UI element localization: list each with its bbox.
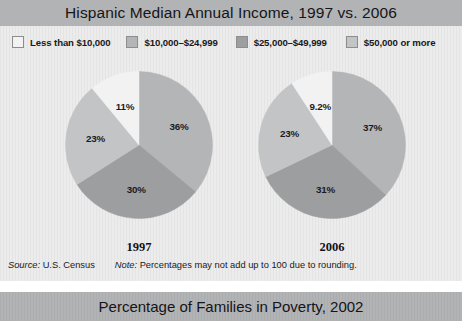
legend-item-label: $10,000–$24,999 (144, 37, 217, 48)
poverty-title-band: Percentage of Families in Poverty, 2002 (0, 292, 462, 321)
legend-swatch-icon (236, 36, 248, 48)
pie-slice-label: 23% (280, 128, 299, 139)
pie-slice-label: 23% (86, 133, 105, 144)
legend-item-label: Less than $10,000 (30, 37, 110, 48)
pie-chart-2006: 37%31%23%9.2% (258, 71, 406, 219)
pie-slice-label: 9.2% (310, 100, 332, 111)
source-value: U.S. Census (43, 260, 95, 270)
income-figure-panel: Hispanic Median Annual Income, 1997 vs. … (0, 0, 462, 281)
pie-slice-label: 37% (363, 122, 382, 133)
panel-divider (0, 281, 462, 292)
pie-2006-canvas: 37%31%23%9.2% (258, 71, 406, 219)
legend-swatch-icon (346, 36, 358, 48)
legend-swatch-icon (126, 36, 138, 48)
source-label: Source: (8, 260, 40, 270)
rounding-note: Note: Percentages may not add up to 100 … (115, 260, 357, 270)
note-value: Percentages may not add up to 100 due to… (140, 260, 357, 270)
legend-item-10000-24999: $10,000–$24,999 (126, 36, 217, 48)
pie-2006-caption: 2006 (320, 240, 345, 255)
footer-notes: Source: U.S. Census Note: Percentages ma… (8, 258, 454, 272)
legend-item-label: $50,000 or more (364, 37, 436, 48)
legend-swatch-icon (12, 36, 24, 48)
figure-page: Hispanic Median Annual Income, 1997 vs. … (0, 0, 462, 321)
page-title: Hispanic Median Annual Income, 1997 vs. … (65, 5, 397, 21)
pie-svg (258, 71, 406, 219)
source-note: Source: U.S. Census (8, 260, 95, 270)
pie-svg (65, 71, 213, 219)
pie-slice-label: 30% (127, 184, 146, 195)
pie-slice-label: 31% (316, 183, 335, 194)
legend-item-less-than-10000: Less than $10,000 (12, 36, 110, 48)
pie-chart-1997: 36%30%23%11% (65, 71, 213, 219)
legend: Less than $10,000 $10,000–$24,999 $25,00… (0, 33, 462, 51)
pie-slice-label: 11% (116, 101, 134, 112)
pie-1997-caption: 1997 (127, 240, 152, 255)
pie-slice-label: 36% (169, 121, 188, 132)
legend-item-50000-or-more: $50,000 or more (346, 36, 436, 48)
legend-item-label: $25,000–$49,999 (254, 37, 327, 48)
note-label: Note: (115, 260, 137, 270)
pie-1997-canvas: 36%30%23%11% (65, 71, 213, 219)
legend-item-25000-49999: $25,000–$49,999 (236, 36, 327, 48)
poverty-title: Percentage of Families in Poverty, 2002 (99, 299, 364, 314)
figure-title-band: Hispanic Median Annual Income, 1997 vs. … (0, 0, 462, 26)
